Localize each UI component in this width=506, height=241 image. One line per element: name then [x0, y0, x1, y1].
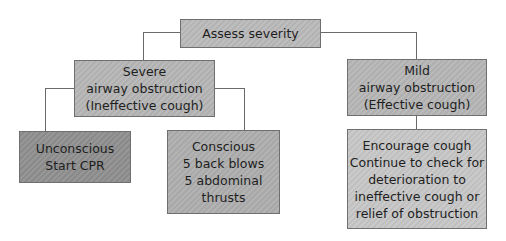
connector-severe-conscious-h — [214, 88, 245, 89]
connector-severe-conscious-v — [244, 88, 245, 130]
node-text-line: Continue to check for — [350, 154, 484, 171]
connector-severe-unconscious-v — [45, 88, 46, 131]
node-text-line: 5 abdominal — [185, 172, 263, 189]
node-text-line: Mild — [404, 62, 430, 79]
node-encourage-cough: Encourage cough Continue to check for de… — [347, 129, 487, 229]
node-text-line: Unconscious — [36, 140, 114, 157]
node-text-line: Assess severity — [202, 25, 298, 42]
node-text-line: Severe — [123, 63, 166, 80]
node-text-line: ineffective cough or — [355, 188, 480, 205]
node-text-line: Encourage cough — [363, 137, 472, 154]
connector-root-severe-v — [143, 32, 144, 60]
connector-severe-unconscious-h — [45, 88, 75, 89]
node-text-line: thrusts — [202, 189, 246, 206]
node-text-line: deterioration to — [368, 171, 466, 188]
node-text-line: Conscious — [192, 138, 255, 155]
connector-root-mild-h — [320, 32, 417, 33]
connector-root-severe-h — [143, 32, 181, 33]
node-text-line: Start CPR — [45, 157, 104, 174]
node-text-line: airway obstruction — [86, 80, 202, 97]
node-mild-obstruction: Mild airway obstruction (Effective cough… — [347, 59, 487, 116]
node-text-line: (Effective cough) — [364, 96, 471, 113]
node-severe-obstruction: Severe airway obstruction (Ineffective c… — [74, 60, 215, 117]
node-conscious: Conscious 5 back blows 5 abdominal thrus… — [167, 130, 280, 214]
node-text-line: 5 back blows — [183, 155, 264, 172]
node-assess-severity: Assess severity — [180, 19, 321, 48]
node-text-line: (Ineffective cough) — [86, 97, 204, 114]
connector-root-mild-v — [416, 32, 417, 60]
node-text-line: airway obstruction — [359, 79, 475, 96]
node-text-line: relief of obstruction — [356, 205, 478, 222]
node-unconscious: Unconscious Start CPR — [19, 131, 131, 183]
connector-mild-action-v — [416, 115, 417, 130]
